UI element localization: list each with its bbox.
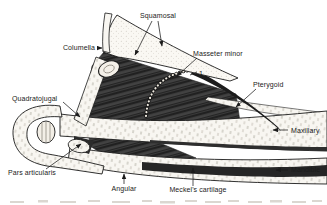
label-angular: Angular bbox=[112, 185, 137, 193]
label-squamosal: Squamosal bbox=[140, 12, 176, 20]
label-quadratojugal: Quadratojugal bbox=[12, 95, 58, 103]
label-pars-articularis: Pars articularis bbox=[8, 169, 56, 176]
label-ref-1: 1 bbox=[199, 70, 203, 77]
anatomy-diagram: Squamosal Columella Masseter minor 1 Pte… bbox=[0, 0, 327, 205]
label-maxillary: Maxillary bbox=[291, 127, 320, 135]
label-masseter-minor: Masseter minor bbox=[193, 50, 243, 57]
figure-canvas: Squamosal Columella Masseter minor 1 Pte… bbox=[0, 0, 327, 205]
label-columella: Columella bbox=[63, 44, 95, 51]
label-meckels-cartilage: Meckel's cartilage bbox=[169, 186, 226, 194]
label-mandible: Mandible bbox=[291, 166, 320, 173]
label-pterygoid: Pterygoid bbox=[253, 81, 283, 89]
